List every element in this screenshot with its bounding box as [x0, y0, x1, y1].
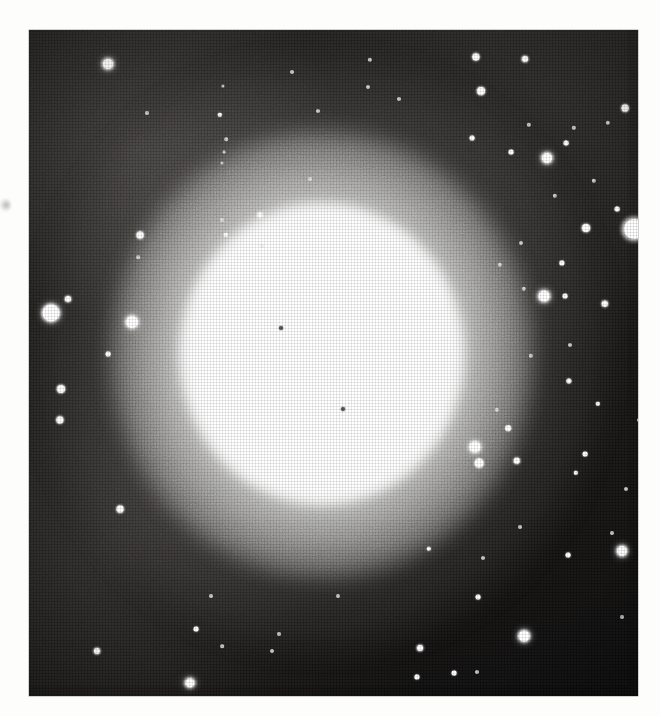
margin-smudge-mark [0, 198, 11, 212]
astronomical-plate [29, 30, 638, 696]
film-grain-texture [29, 30, 628, 686]
page-sheet [0, 0, 660, 716]
